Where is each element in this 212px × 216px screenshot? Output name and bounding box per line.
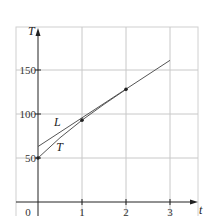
series-line-L bbox=[38, 60, 170, 146]
y-tick-label: 50 bbox=[25, 152, 37, 164]
origin-label: 0 bbox=[25, 206, 31, 216]
y-axis-arrow-icon bbox=[36, 28, 41, 36]
curve-label-T: T bbox=[56, 140, 64, 154]
x-axis-arrow-icon bbox=[190, 200, 198, 205]
x-axis-label: t bbox=[199, 203, 203, 216]
axis-labels: 123501001500Tt bbox=[20, 24, 204, 216]
grid-lines bbox=[16, 27, 198, 216]
data-point bbox=[80, 118, 84, 122]
series-group: LT bbox=[38, 60, 170, 158]
data-point bbox=[124, 88, 128, 92]
line-chart: LT 123501001500Tt bbox=[0, 0, 212, 216]
x-tick-label: 1 bbox=[79, 206, 85, 216]
x-tick-label: 3 bbox=[167, 206, 173, 216]
y-tick-label: 100 bbox=[20, 108, 37, 120]
curve-label-L: L bbox=[53, 115, 61, 129]
data-point bbox=[36, 156, 40, 160]
x-tick-label: 2 bbox=[123, 206, 129, 216]
plot-frame bbox=[16, 27, 198, 216]
y-axis-label: T bbox=[28, 24, 36, 38]
axes bbox=[16, 28, 198, 216]
y-tick-label: 150 bbox=[20, 64, 37, 76]
